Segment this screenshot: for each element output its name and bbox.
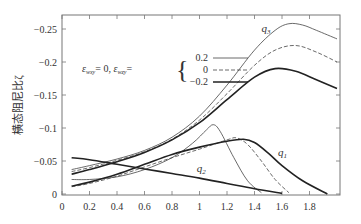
x-tick-label: 1.2: [221, 201, 234, 212]
curve-label: q3: [261, 22, 271, 36]
x-tick-label: 1.4: [248, 201, 261, 212]
series-curve: [72, 158, 282, 194]
legend: εwxy= 0, εwzy={0.20−0.2: [82, 52, 248, 87]
curve-label: q2: [197, 162, 207, 176]
y-tick-label: −0.05: [34, 156, 57, 167]
legend-entry-label: 0.2: [196, 52, 209, 63]
curve-annotations: q3q1q2: [197, 22, 287, 176]
x-tick-label: 0.4: [111, 201, 124, 212]
x-tick-label: 1.6: [276, 201, 289, 212]
x-tick-label: 1.8: [303, 201, 316, 212]
x-tick-label: 1: [197, 201, 202, 212]
chart-canvas: 00.20.40.60.811.21.41.61.8 0−0.05−0.1−0.…: [0, 0, 361, 224]
y-tick-label: 0: [52, 189, 57, 200]
y-tick-label: −0.25: [34, 24, 57, 35]
x-tick-label: 0.2: [83, 201, 96, 212]
x-tick-label: 0.6: [138, 201, 151, 212]
y-tick-label: −0.2: [39, 57, 57, 68]
y-axis-label: 横态阻尼比ζ: [11, 75, 25, 135]
y-tick-label: −0.1: [39, 123, 57, 134]
legend-entry-label: −0.2: [190, 76, 208, 87]
series-curve: [72, 125, 262, 193]
legend-entry-label: 0: [203, 64, 208, 75]
legend-brace: {: [176, 55, 188, 84]
x-tick-label: 0.8: [166, 201, 179, 212]
y-tick-label: −0.15: [34, 90, 57, 101]
legend-condition: εwxy= 0, εwzy=: [82, 63, 132, 75]
curve-label: q1: [278, 146, 287, 160]
x-axis-ticks: 00.20.40.60.811.21.41.61.8: [60, 15, 316, 212]
y-axis-ticks: 0−0.05−0.1−0.15−0.2−0.25: [34, 24, 340, 200]
x-tick-label: 0: [60, 201, 65, 212]
